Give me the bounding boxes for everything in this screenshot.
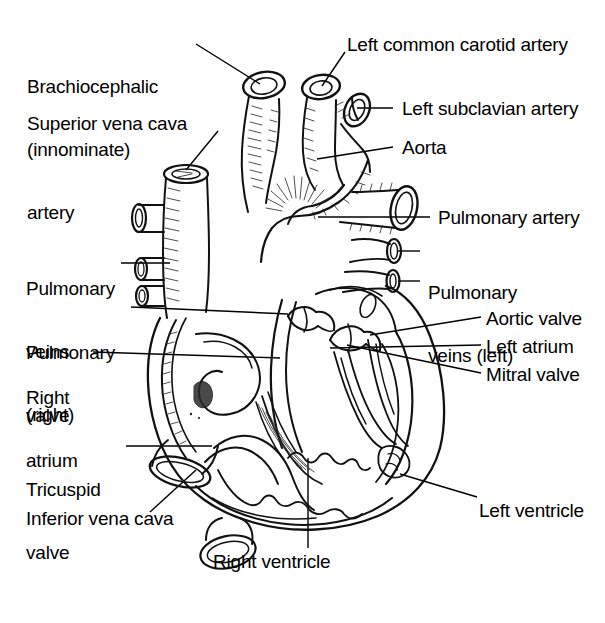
aorta-vessel xyxy=(261,160,370,262)
leader-brachiocephalic xyxy=(196,44,260,84)
inferior-vena-cava-vessel xyxy=(147,440,218,493)
heart-diagram-page: Brachiocephalic (innominate) artery Supe… xyxy=(0,0,605,623)
label-mitral-valve: Mitral valve xyxy=(486,364,580,385)
label-pulmonary-veins-left-line1: Pulmonary xyxy=(428,282,517,303)
label-superior-vena-cava: Superior vena cava xyxy=(27,113,187,134)
label-inferior-vena-cava: Inferior vena cava xyxy=(26,508,173,529)
label-aortic-valve: Aortic valve xyxy=(486,308,582,329)
label-pulmonary-artery: Pulmonary artery xyxy=(438,207,579,228)
label-right-ventricle: Right ventricle xyxy=(213,551,330,572)
leader-pulmonary-valve xyxy=(131,307,288,314)
label-tricuspid-valve-line2: valve xyxy=(26,542,101,563)
label-pulmonary-veins-right-line1: Pulmonary xyxy=(26,278,115,299)
label-left-ventricle: Left ventricle xyxy=(479,500,584,521)
leader-aorta xyxy=(317,147,393,159)
pulmonary-valve-cusps xyxy=(288,307,334,332)
pulmonary-veins-left-vessel xyxy=(343,239,401,292)
heart-body xyxy=(148,286,444,530)
label-aorta: Aorta xyxy=(402,137,446,158)
label-tricuspid-valve-line1: Tricuspid xyxy=(26,479,101,500)
label-right-atrium-line1: Right xyxy=(26,387,78,408)
label-left-common-carotid-artery: Left common carotid artery xyxy=(347,34,568,55)
label-brachiocephalic-line1: Brachiocephalic xyxy=(27,76,158,97)
label-brachiocephalic-line3: artery xyxy=(27,202,158,223)
label-left-atrium: Left atrium xyxy=(486,336,574,357)
label-brachiocephalic-artery: Brachiocephalic (innominate) artery xyxy=(27,34,158,265)
brachiocephalic-artery-vessel xyxy=(241,69,287,212)
pericardial-fan xyxy=(266,176,329,211)
label-brachiocephalic-line2: (innominate) xyxy=(27,139,158,160)
label-left-subclavian-artery: Left subclavian artery xyxy=(402,98,578,119)
great-vessels xyxy=(241,69,421,262)
left-common-carotid-vessel xyxy=(301,72,343,190)
